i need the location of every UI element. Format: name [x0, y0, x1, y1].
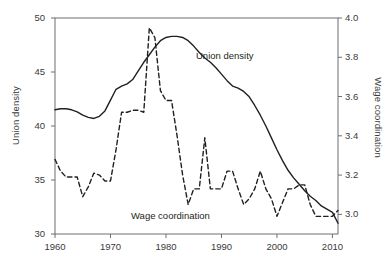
y-tick-label-right: 3.2	[345, 169, 369, 180]
x-tick-label: 1970	[90, 241, 130, 252]
y-tick-label-left: 40	[23, 120, 45, 131]
series-line-wage-coordination	[55, 28, 338, 217]
y-tick-label-right: 3.4	[345, 130, 369, 141]
plot-area	[0, 0, 387, 273]
series-line-union-density	[55, 36, 338, 223]
plot-frame	[55, 18, 338, 234]
y-tick-label-left: 45	[23, 66, 45, 77]
x-tick-label: 1980	[146, 241, 186, 252]
y-tick-label-right: 3.6	[345, 91, 369, 102]
y-tick-label-left: 35	[23, 174, 45, 185]
x-tick-label: 2000	[257, 241, 297, 252]
x-tick-label: 1960	[35, 241, 75, 252]
y-tick-label-right: 3.8	[345, 51, 369, 62]
y-tick-label-right: 3.0	[345, 208, 369, 219]
y-tick-label-left: 50	[23, 12, 45, 23]
y-tick-label-right: 4.0	[345, 12, 369, 23]
chart-figure: Union density Wage coordination Union de…	[0, 0, 387, 273]
x-tick-label: 1990	[201, 241, 241, 252]
y-tick-label-left: 30	[23, 228, 45, 239]
x-tick-label: 2010	[312, 241, 352, 252]
